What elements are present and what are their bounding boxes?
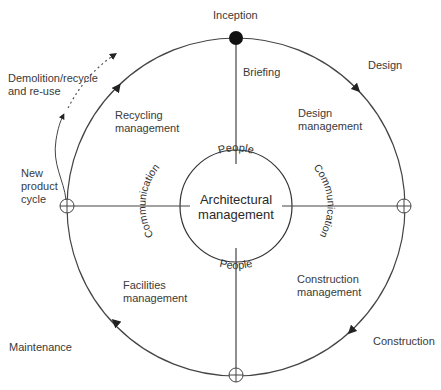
note-demolition-line1: Demolition/recycle [8,72,98,85]
stage-inception: Inception [213,9,258,22]
quadrant-construction-line1: Construction [297,273,361,286]
quadrant-recycling-line2: management [115,122,179,135]
quadrant-recycling-management: Recycling management [115,109,179,135]
communication-left-label: Communication [135,161,161,240]
note-new-cycle-line3: cycle [21,193,58,206]
center-label-line1: Architectural [176,192,296,207]
communication-right-label: Communication [312,161,338,240]
note-new-cycle-line2: product [21,180,58,193]
stage-construction: Construction [373,335,435,348]
quadrant-recycling-line1: Recycling [115,109,179,122]
quadrant-facilities-line1: Facilities [123,279,187,292]
stage-design: Design [368,59,402,72]
quadrant-construction-line2: management [297,286,361,299]
svg-text:Communication: Communication [312,161,338,240]
crosshair-node-bottom-icon [229,368,243,382]
crosshair-node-left-icon [60,199,74,213]
crosshair-node-right-icon [397,199,411,213]
note-new-product-cycle: New product cycle [21,167,58,206]
center-label-line2: management [176,207,296,222]
inception-node-icon [229,31,243,45]
note-demolition-line2: and re-use [8,85,98,98]
quadrant-design-management: Design management [298,107,362,133]
note-new-cycle-line1: New [21,167,58,180]
quadrant-facilities-line2: management [123,292,187,305]
svg-text:Communication: Communication [135,161,161,240]
quadrant-facilities-management: Facilities management [123,279,187,305]
quadrant-design-line2: management [298,120,362,133]
center-label: Architectural management [176,192,296,222]
quadrant-design-line1: Design [298,107,362,120]
quadrant-briefing: Briefing [243,66,280,79]
quadrant-construction-management: Construction management [297,273,361,299]
stage-maintenance: Maintenance [9,341,72,354]
note-demolition: Demolition/recycle and re-use [8,72,98,98]
